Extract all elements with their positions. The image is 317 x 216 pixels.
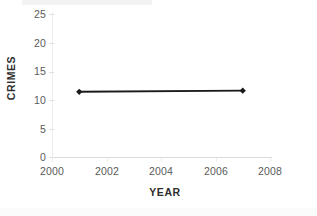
crimes-by-year-chart: 25 20 15 10 5 0 2000 2002 2004 2006 2008… [0,0,317,216]
data-point-marker [240,88,246,94]
series-line [79,91,243,92]
series-crimes [0,0,317,216]
data-point-marker [76,89,82,95]
